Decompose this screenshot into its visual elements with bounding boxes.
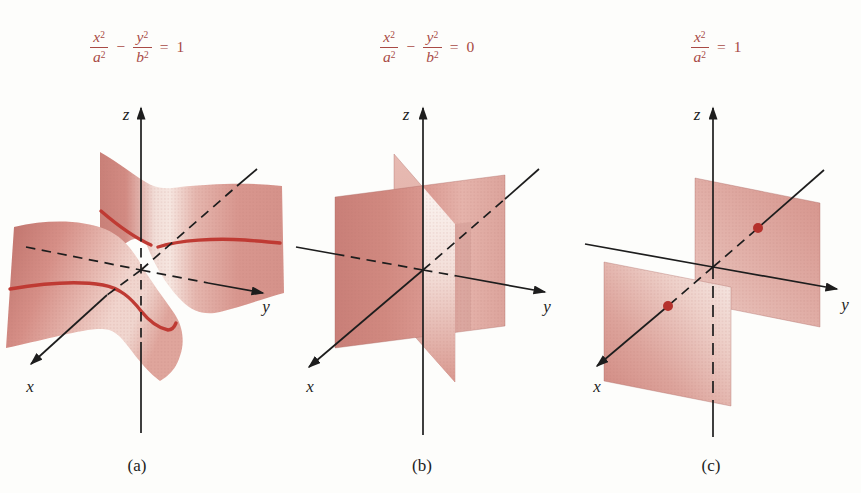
y-axis-label: y	[541, 297, 551, 316]
x-intercept-dot-front	[663, 301, 673, 311]
panel-b: z x y	[296, 105, 551, 435]
panel-caption-b: (b)	[387, 456, 457, 476]
x-axis-label: x	[25, 377, 34, 396]
fraction-x-over-a: x2 a2	[90, 29, 109, 65]
x-axis-label: x	[305, 377, 314, 396]
equation-c: x2 a2 = 1	[646, 22, 786, 72]
fraction-y-over-b: y2 b2	[423, 29, 442, 65]
equals-sign: =	[160, 38, 169, 56]
figure-canvas: z x y	[0, 0, 861, 493]
fraction-x-over-a: x2 a2	[691, 29, 710, 65]
panel-caption-c: (c)	[676, 456, 746, 476]
plane-x-eq-a	[604, 262, 731, 406]
rhs-value: 1	[734, 38, 742, 56]
equals-sign: =	[450, 38, 459, 56]
plane-x-eq-neg-y	[335, 175, 505, 348]
panel-c: z x y	[585, 105, 849, 437]
z-axis-label: z	[122, 105, 130, 124]
y-axis-label: y	[839, 295, 849, 314]
equals-sign: =	[717, 38, 726, 56]
z-axis-label: z	[402, 105, 410, 124]
panel-a: z x y	[6, 105, 284, 433]
textbook-figure: z x y	[0, 0, 861, 493]
x-axis-label: x	[592, 377, 601, 396]
minus-sign: −	[406, 38, 415, 56]
fraction-x-over-a: x2 a2	[380, 29, 399, 65]
fraction-y-over-b: y2 b2	[133, 29, 152, 65]
y-axis-label: y	[260, 297, 270, 316]
equation-b: x2 a2 − y2 b2 = 0	[337, 22, 517, 72]
rhs-value: 0	[466, 38, 474, 56]
x-intercept-dot-back	[753, 223, 763, 233]
minus-sign: −	[116, 38, 125, 56]
z-axis-label: z	[693, 105, 701, 124]
panel-caption-a: (a)	[102, 456, 172, 476]
equation-a: x2 a2 − y2 b2 = 1	[47, 22, 227, 72]
rhs-value: 1	[176, 38, 184, 56]
